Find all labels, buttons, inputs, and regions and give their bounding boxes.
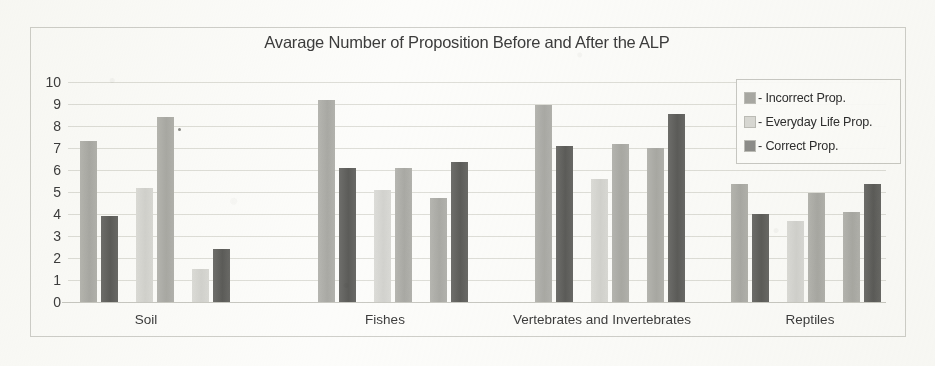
bar <box>318 100 335 302</box>
bar <box>395 168 412 302</box>
y-tick-label: 8 <box>33 119 61 133</box>
x-axis-line <box>62 302 886 303</box>
bar <box>101 216 118 302</box>
bar <box>556 146 573 302</box>
x-category-label: Soil <box>135 312 158 327</box>
bar <box>731 184 748 302</box>
bar <box>647 148 664 302</box>
y-tick-label: 0 <box>33 295 61 309</box>
x-axis-category-labels: SoilFishesVertebrates and InvertebratesR… <box>68 312 886 334</box>
bar <box>451 162 468 302</box>
legend-swatch-icon <box>744 140 756 152</box>
legend-item-correct[interactable]: - Correct Prop. <box>744 134 893 158</box>
bar <box>668 114 685 302</box>
y-tick-label: 1 <box>33 273 61 287</box>
bar <box>430 198 447 303</box>
bar <box>808 193 825 302</box>
y-tick-label: 4 <box>33 207 61 221</box>
y-tick-label: 3 <box>33 229 61 243</box>
bar <box>192 269 209 302</box>
scan-speck <box>178 128 181 131</box>
legend-item-everyday[interactable]: - Everyday Life Prop. <box>744 110 893 134</box>
legend-label: - Everyday Life Prop. <box>758 115 872 129</box>
gridline <box>68 192 886 193</box>
chart-legend: - Incorrect Prop.- Everyday Life Prop.- … <box>736 79 901 164</box>
bar <box>864 184 881 302</box>
bar <box>591 179 608 302</box>
bar <box>612 144 629 302</box>
y-tick-label: 7 <box>33 141 61 155</box>
bar <box>843 212 860 302</box>
legend-swatch-icon <box>744 116 756 128</box>
y-tick-label: 9 <box>33 97 61 111</box>
x-category-label: Vertebrates and Invertebrates <box>513 312 691 327</box>
bar <box>157 117 174 302</box>
bar <box>374 190 391 302</box>
y-tick-label: 6 <box>33 163 61 177</box>
legend-item-incorrect[interactable]: - Incorrect Prop. <box>744 86 893 110</box>
bar <box>339 168 356 302</box>
chart-title: Avarage Number of Proposition Before and… <box>30 33 904 52</box>
bar <box>136 188 153 302</box>
y-tick-label: 10 <box>33 75 61 89</box>
y-axis-tick-labels: 109876543210 <box>33 72 61 312</box>
bar <box>535 105 552 302</box>
bar <box>213 249 230 302</box>
bar <box>787 221 804 302</box>
x-category-label: Reptiles <box>786 312 835 327</box>
y-tick-label: 2 <box>33 251 61 265</box>
bar <box>80 141 97 302</box>
x-category-label: Fishes <box>365 312 405 327</box>
legend-label: - Incorrect Prop. <box>758 91 846 105</box>
gridline <box>68 170 886 171</box>
y-tick-label: 5 <box>33 185 61 199</box>
bar <box>752 214 769 302</box>
legend-label: - Correct Prop. <box>758 139 838 153</box>
legend-swatch-icon <box>744 92 756 104</box>
chart-screenshot: Avarage Number of Proposition Before and… <box>0 0 935 366</box>
